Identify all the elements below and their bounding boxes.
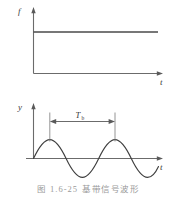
x-axis-label-bottom: t (160, 162, 163, 172)
chart-panel-bottom: T b y t (0, 96, 176, 184)
caption-title: 基带信号波形 (82, 184, 139, 195)
y-axis-label-top: f (18, 6, 22, 16)
figure-root: f t T b y t (0, 0, 176, 200)
chart-panel-top: f t (0, 0, 176, 96)
y-axis-arrow-top (31, 7, 35, 13)
x-axis-arrow-top (157, 71, 163, 75)
y-axis-label-bottom: y (17, 102, 22, 112)
x-axis-label-top: t (160, 77, 163, 87)
period-arrow-right (109, 119, 115, 124)
period-arrow-left (50, 119, 56, 124)
caption-number: 图 1.6-25 (37, 184, 78, 195)
constant-signal-plot: f t (0, 0, 176, 96)
figure-caption: 图 1.6-25 基带信号波形 (0, 184, 176, 200)
x-axis-arrow-bottom (157, 156, 163, 160)
sine-wave-plot: T b y t (0, 96, 176, 184)
period-label-subscript: b (82, 115, 85, 121)
y-axis-arrow-bottom (31, 103, 35, 109)
